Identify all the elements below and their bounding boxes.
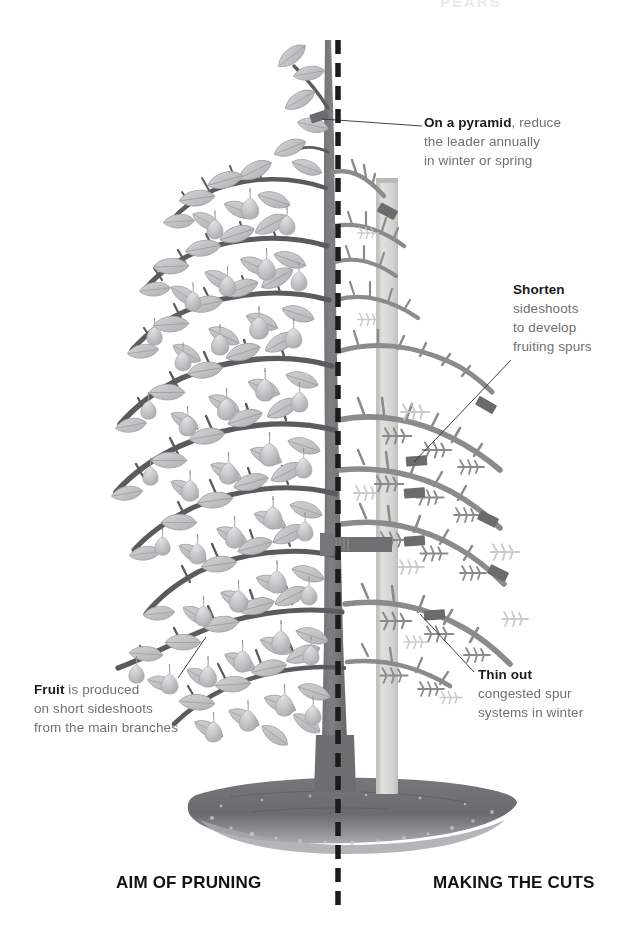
callout-on-a-pyramid: On a pyramid, reduce the leader annually… [424,113,561,170]
top-cropped-header: PEARS [440,0,502,10]
callout-shorten-line4: fruiting spurs [513,337,592,356]
callout-thin-line3: systems in winter [478,703,583,722]
callout-thin-out: Thin out congested spur systems in winte… [478,665,583,722]
callout-fruit-rest: is produced [65,682,140,697]
figure-canvas: PEARS On a pyramid, reduce the leader an… [0,0,636,939]
callout-shorten-line3: to develop [513,318,592,337]
callout-shorten-line2: sideshoots [513,299,592,318]
callout-fruit-line3: from the main branches [34,718,178,737]
callout-pyramid-bold: On a pyramid [424,115,511,130]
callout-fruit: Fruit is produced on short sideshoots fr… [34,680,178,737]
callout-shorten: Shorten sideshoots to develop fruiting s… [513,280,592,356]
leader-line-thin [420,614,474,672]
callout-shorten-bold: Shorten [513,282,565,297]
section-title-making-the-cuts: MAKING THE CUTS [433,873,595,893]
callout-fruit-line1: Fruit is produced [34,680,178,699]
callout-pyramid-line1: On a pyramid, reduce [424,113,561,132]
callout-thin-bold: Thin out [478,667,532,682]
callout-pyramid-line2: the leader annually [424,132,561,151]
callout-pyramid-rest: , reduce [511,115,561,130]
callout-thin-line2: congested spur [478,684,583,703]
section-title-aim-of-pruning: AIM OF PRUNING [116,873,261,893]
callout-shorten-line1: Shorten [513,280,592,299]
callout-fruit-bold: Fruit [34,682,65,697]
callout-thin-line1: Thin out [478,665,583,684]
callout-pyramid-line3: in winter or spring [424,151,561,170]
callout-fruit-line2: on short sideshoots [34,699,178,718]
